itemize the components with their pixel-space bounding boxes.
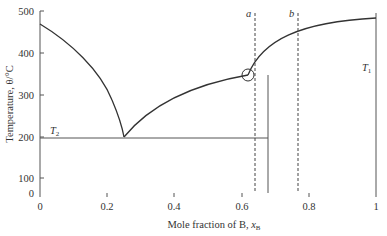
x-ticks: [40, 193, 376, 197]
y-tick-label: 0: [29, 188, 34, 199]
isotherm-t1-label: T1: [362, 62, 372, 75]
x-tick-label: 1: [373, 201, 378, 212]
y-tick-label: 300: [18, 90, 34, 101]
liquidus-curve-a: [40, 24, 124, 137]
y-tick-label: 200: [18, 132, 34, 143]
x-tick-label: 0.8: [302, 201, 315, 212]
x-tick-label: 0.4: [167, 201, 181, 212]
x-axis-title: Mole fraction of B, xB: [167, 219, 260, 232]
y-ticks: [40, 11, 44, 178]
x-tick-label: 0.6: [235, 201, 248, 212]
x-tick-label: 0.2: [100, 201, 113, 212]
liquidus-curve-compound: [124, 75, 248, 137]
y-axis-title: Temperature, θ/°C: [4, 65, 15, 142]
y-tick-label: 500: [18, 6, 34, 17]
liquidus-curve-b: [248, 18, 376, 75]
isotherm-t2-label: T2: [50, 125, 60, 138]
phase-diagram: 500 400 300 200 100 0 Temperature, θ/°C …: [0, 0, 387, 236]
y-tick-label: 400: [18, 48, 34, 59]
composition-label-a: a: [246, 8, 251, 19]
x-tick-label: 0: [37, 201, 42, 212]
y-tick-label: 100: [18, 173, 34, 184]
composition-label-b: b: [289, 8, 294, 19]
